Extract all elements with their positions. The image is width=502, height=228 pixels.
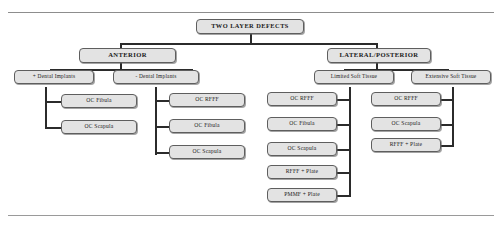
node-plus-dental-implants[interactable]: + Dental Implants: [14, 70, 94, 84]
connector-level2-bus: [120, 43, 378, 45]
node-column1-oc-fibula[interactable]: OC Fibula: [61, 94, 137, 108]
connector-column3-stub-1: [336, 99, 351, 101]
node-column4-oc-rfff[interactable]: OC RFFF: [371, 92, 441, 106]
connector-column2-stub-3: [155, 152, 170, 154]
connector-column3-stub-2: [336, 124, 351, 126]
connector-column1-stub-2: [45, 127, 62, 129]
connector-column3-stub-3: [336, 149, 351, 151]
connector-column1-trunk: [45, 87, 47, 129]
node-column4-rfff-plate[interactable]: RFFF + Plate: [371, 138, 441, 152]
node-limited-soft-tissue[interactable]: Limited Soft Tissue: [314, 70, 394, 84]
connector-column4-stub-3: [440, 145, 454, 147]
node-column1-oc-scapula[interactable]: OC Scapula: [61, 120, 137, 134]
connector-column4-stub-2: [440, 124, 454, 126]
node-column2-oc-rfff[interactable]: OC RFFF: [169, 93, 245, 107]
connector-column2-trunk: [155, 87, 157, 155]
connector-column3-stub-4: [336, 172, 351, 174]
node-column4-oc-scapula[interactable]: OC Scapula: [371, 117, 441, 131]
node-two-layer-defects[interactable]: TWO LAYER DEFECTS: [196, 19, 304, 34]
node-column2-oc-fibula[interactable]: OC Fibula: [169, 119, 245, 133]
connector-column3-stub-5: [336, 195, 351, 197]
connector-column3-trunk: [349, 87, 351, 197]
connector-column1-stub-1: [45, 101, 62, 103]
node-column2-oc-scapula[interactable]: OC Scapula: [169, 145, 245, 159]
node-column3-oc-scapula[interactable]: OC Scapula: [267, 142, 337, 156]
node-lateral-posterior[interactable]: LATERAL/POSTERIOR: [327, 48, 431, 63]
node-minus-dental-implants[interactable]: - Dental Implants: [113, 70, 199, 84]
connector-column2-stub-2: [155, 126, 170, 128]
bottom-divider-rule: [8, 215, 494, 216]
node-column3-pmmf-plate[interactable]: PMMF + Plate: [267, 188, 337, 202]
connector-column4-trunk: [452, 87, 454, 147]
node-extensive-soft-tissue[interactable]: Extensive Soft Tissue: [411, 70, 491, 84]
flowchart-figure: TWO LAYER DEFECTS ANTERIOR LATERAL/POSTE…: [0, 0, 502, 228]
connector-column2-stub-1: [155, 100, 170, 102]
node-column3-oc-fibula[interactable]: OC Fibula: [267, 117, 337, 131]
node-column3-oc-rfff[interactable]: OC RFFF: [267, 92, 337, 106]
node-column3-rfff-plate[interactable]: RFFF + Plate: [267, 165, 337, 179]
connector-column4-stub-1: [440, 99, 454, 101]
top-divider-rule: [8, 12, 494, 13]
node-anterior[interactable]: ANTERIOR: [79, 48, 176, 63]
